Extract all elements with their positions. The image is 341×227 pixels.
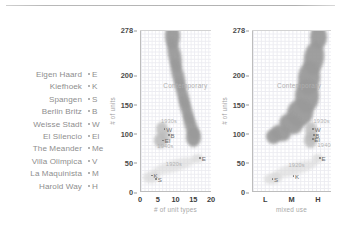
data-point-dot-icon [155, 178, 157, 180]
x-axis-tick: H [315, 195, 320, 204]
x-axis-tick: M [288, 195, 294, 204]
scatter-chart-mixed-use: SKEWBElContemporary1930s1940s1920s 05010… [224, 14, 337, 214]
era-annotation: Contemporary [277, 82, 321, 89]
legend-project-name: Eigen Haard [36, 69, 82, 81]
legend-project-abbr: H [92, 181, 108, 193]
legend-dot-icon [88, 185, 90, 187]
legend-row: El SilencioEl [8, 131, 108, 143]
legend-row: The MeanderMe [8, 143, 108, 155]
legend-dot-icon [88, 172, 90, 174]
legend-dot-icon [88, 135, 90, 137]
x-axis-title: # of unit types [154, 206, 197, 213]
data-point-abbr: B [170, 132, 174, 139]
legend-dot-icon [88, 147, 90, 149]
x-axis-tick: 10 [171, 195, 179, 204]
era-annotation: 1920s [166, 161, 182, 167]
y-axis-tick: 50 [237, 158, 245, 167]
legend-row: SpangenS [8, 94, 108, 106]
x-axis-tick: 0 [138, 195, 142, 204]
data-point-label: K [293, 173, 300, 180]
legend-row: Harold WayH [8, 181, 108, 193]
legend-dot-icon [88, 73, 90, 75]
header-divider [6, 5, 335, 6]
data-point-dot-icon [199, 157, 201, 159]
y-axis-tick: 50 [125, 158, 133, 167]
y-axis-tick: 0 [241, 188, 245, 197]
legend-project-name: Weisse Stadt [33, 119, 82, 131]
x-axis-tick: 20 [207, 195, 215, 204]
data-point-abbr: K [295, 173, 299, 180]
figure-root: Eigen HaardEKiefhoekKSpangenSBerlin Brit… [0, 0, 341, 227]
legend-project-name: Kiefhoek [50, 81, 82, 93]
plot-area-1: KSEWBElContemporary1930s1940s1920s [140, 30, 211, 192]
legend-project-name: Harold Way [39, 181, 82, 193]
legend-dot-icon [88, 160, 90, 162]
y-axis-tick: 278 [121, 26, 133, 35]
data-point-label: E [199, 155, 206, 162]
legend-project-abbr: V [92, 156, 108, 168]
data-point-dot-icon [272, 178, 274, 180]
legend-project-abbr: W [92, 119, 108, 131]
era-annotation: Contemporary [163, 82, 207, 89]
y-axis-title: # of units [109, 97, 116, 125]
plot-area-2: SKEWBElContemporary1930s1940s1920s [252, 30, 331, 192]
top-tick-guide [252, 30, 331, 31]
scatter-chart-unit-types: KSEWBElContemporary1930s1940s1920s 05010… [112, 14, 217, 214]
data-point-dot-icon [312, 128, 314, 130]
y-axis-tick: 278 [233, 26, 245, 35]
data-point-label: E [319, 155, 326, 162]
legend-project-abbr: Me [92, 143, 108, 155]
legend-row: Villa OlimpicaV [8, 156, 108, 168]
legend-project-name: Berlin Britz [42, 106, 82, 118]
x-axis-tick: 15 [189, 195, 197, 204]
data-point-labels-1: KSEWBElContemporary1930s1940s1920s [141, 30, 211, 191]
legend-dot-icon [88, 98, 90, 100]
legend-dot-icon [88, 123, 90, 125]
era-annotation: 1930s [161, 118, 177, 124]
data-point-label: S [272, 176, 279, 183]
data-point-abbr: S [274, 176, 278, 183]
x-axis-tick: L [263, 195, 268, 204]
data-point-label: S [155, 176, 162, 183]
data-point-abbr: E [202, 155, 206, 162]
legend-row: Weisse StadtW [8, 119, 108, 131]
legend-project-abbr: El [92, 131, 108, 143]
era-annotation: 1930s [314, 118, 330, 124]
legend-project-name: Spangen [49, 94, 82, 106]
y-axis-tick: 150 [121, 100, 133, 109]
y-axis-tick: 150 [233, 100, 245, 109]
era-annotation: 1920s [289, 162, 305, 168]
data-point-labels-2: SKEWBElContemporary1930s1940s1920s [253, 30, 331, 191]
x-axis-tick: 5 [156, 195, 160, 204]
legend-project-abbr: S [92, 94, 108, 106]
legend-project-abbr: B [92, 106, 108, 118]
top-tick-guide [140, 30, 211, 31]
legend-project-abbr: E [92, 69, 108, 81]
legend-project-abbr: M [92, 168, 108, 180]
y-axis-tick: 200 [121, 71, 133, 80]
data-point-dot-icon [162, 140, 164, 142]
legend-project-name: Villa Olimpica [32, 156, 82, 168]
data-point-abbr: S [158, 176, 162, 183]
legend-project-name: La Maquinista [30, 168, 82, 180]
legend-project-abbr: K [92, 81, 108, 93]
project-legend: Eigen HaardEKiefhoekKSpangenSBerlin Brit… [8, 69, 108, 193]
legend-row: Berlin BritzB [8, 106, 108, 118]
legend-project-name: El Silencio [43, 131, 82, 143]
legend-row: Eigen HaardE [8, 69, 108, 81]
y-axis-tick: 100 [233, 129, 245, 138]
y-axis-title: # of units [221, 97, 228, 125]
data-point-abbr: E [321, 155, 325, 162]
legend-project-name: The Meander [33, 143, 82, 155]
y-axis-tick: 0 [129, 188, 133, 197]
y-axis-tick: 100 [121, 129, 133, 138]
era-annotation: 1940s [318, 142, 331, 148]
legend-dot-icon [88, 85, 90, 87]
legend-dot-icon [88, 110, 90, 112]
x-axis-title: mixed use [276, 206, 307, 213]
legend-row: KiefhoekK [8, 81, 108, 93]
legend-row: La MaquinistaM [8, 168, 108, 180]
y-axis-tick: 200 [233, 71, 245, 80]
era-annotation: 1940s [157, 143, 173, 149]
